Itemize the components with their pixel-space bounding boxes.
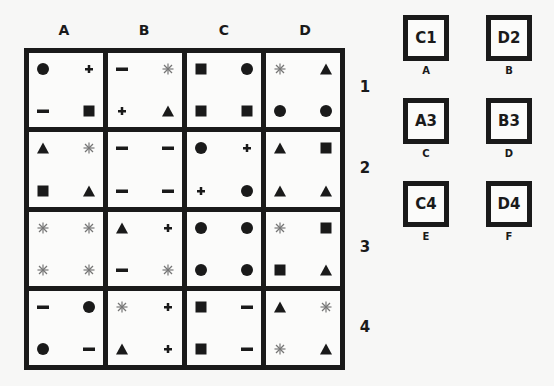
plus-icon bbox=[240, 141, 254, 155]
column-label-b: B bbox=[104, 22, 184, 38]
triangle-icon bbox=[82, 184, 96, 198]
triangle-icon bbox=[161, 104, 175, 118]
triangle-icon bbox=[273, 141, 287, 155]
option-label-d: D bbox=[486, 148, 532, 159]
option-box-b[interactable]: D2 bbox=[486, 15, 532, 61]
grid-cell-a3 bbox=[29, 212, 103, 286]
grid-cell-d4 bbox=[266, 291, 340, 365]
option-label-a: A bbox=[403, 65, 449, 76]
option-box-e[interactable]: C4 bbox=[403, 181, 449, 227]
square-icon bbox=[240, 104, 254, 118]
grid-cell-b3 bbox=[108, 212, 182, 286]
asterisk-icon bbox=[161, 62, 175, 76]
option-box-d[interactable]: B3 bbox=[486, 98, 532, 144]
asterisk-icon bbox=[273, 221, 287, 235]
option-label-f: F bbox=[486, 231, 532, 242]
circle-icon bbox=[194, 221, 208, 235]
minus-icon bbox=[115, 141, 129, 155]
triangle-icon bbox=[319, 184, 333, 198]
plus-icon bbox=[115, 104, 129, 118]
square-icon bbox=[319, 141, 333, 155]
triangle-icon bbox=[319, 342, 333, 356]
option-label-b: B bbox=[486, 65, 532, 76]
minus-icon bbox=[115, 184, 129, 198]
square-icon bbox=[36, 184, 50, 198]
minus-icon bbox=[36, 104, 50, 118]
row-label-2: 2 bbox=[355, 159, 375, 177]
asterisk-icon bbox=[273, 62, 287, 76]
circle-icon bbox=[36, 342, 50, 356]
option-label-e: E bbox=[403, 231, 449, 242]
column-label-c: C bbox=[184, 22, 264, 38]
square-icon bbox=[82, 104, 96, 118]
asterisk-icon bbox=[36, 263, 50, 277]
circle-icon bbox=[82, 300, 96, 314]
square-icon bbox=[194, 104, 208, 118]
circle-icon bbox=[319, 104, 333, 118]
grid-cell-a1 bbox=[29, 53, 103, 127]
option-box-f[interactable]: D4 bbox=[486, 181, 532, 227]
asterisk-icon bbox=[115, 300, 129, 314]
grid-cell-c1 bbox=[187, 53, 261, 127]
grid-cell-b2 bbox=[108, 132, 182, 206]
circle-icon bbox=[240, 62, 254, 76]
minus-icon bbox=[82, 342, 96, 356]
triangle-icon bbox=[273, 300, 287, 314]
triangle-icon bbox=[319, 263, 333, 277]
asterisk-icon bbox=[273, 342, 287, 356]
grid-cell-d2 bbox=[266, 132, 340, 206]
grid-cell-c2 bbox=[187, 132, 261, 206]
circle-icon bbox=[240, 263, 254, 277]
triangle-icon bbox=[273, 184, 287, 198]
column-label-a: A bbox=[24, 22, 104, 38]
grid-cell-a2 bbox=[29, 132, 103, 206]
grid-cell-c3 bbox=[187, 212, 261, 286]
circle-icon bbox=[194, 141, 208, 155]
asterisk-icon bbox=[82, 141, 96, 155]
asterisk-icon bbox=[161, 263, 175, 277]
plus-icon bbox=[161, 221, 175, 235]
triangle-icon bbox=[36, 141, 50, 155]
plus-icon bbox=[194, 184, 208, 198]
asterisk-icon bbox=[82, 263, 96, 277]
triangle-icon bbox=[319, 62, 333, 76]
square-icon bbox=[194, 342, 208, 356]
square-icon bbox=[273, 263, 287, 277]
circle-icon bbox=[240, 221, 254, 235]
minus-icon bbox=[161, 184, 175, 198]
option-box-a[interactable]: C1 bbox=[403, 15, 449, 61]
plus-icon bbox=[161, 342, 175, 356]
row-label-1: 1 bbox=[355, 78, 375, 96]
triangle-icon bbox=[115, 221, 129, 235]
plus-icon bbox=[161, 300, 175, 314]
symbol-grid bbox=[24, 48, 345, 370]
circle-icon bbox=[36, 62, 50, 76]
asterisk-icon bbox=[82, 221, 96, 235]
option-box-c[interactable]: A3 bbox=[403, 98, 449, 144]
grid-cell-b1 bbox=[108, 53, 182, 127]
grid-cell-a4 bbox=[29, 291, 103, 365]
row-label-4: 4 bbox=[355, 318, 375, 336]
grid-cell-b4 bbox=[108, 291, 182, 365]
minus-icon bbox=[240, 342, 254, 356]
row-label-3: 3 bbox=[355, 238, 375, 256]
minus-icon bbox=[115, 263, 129, 277]
grid-cell-d3 bbox=[266, 212, 340, 286]
minus-icon bbox=[36, 300, 50, 314]
plus-icon bbox=[82, 62, 96, 76]
circle-icon bbox=[194, 263, 208, 277]
triangle-icon bbox=[115, 342, 129, 356]
minus-icon bbox=[115, 62, 129, 76]
square-icon bbox=[319, 221, 333, 235]
asterisk-icon bbox=[36, 221, 50, 235]
minus-icon bbox=[161, 141, 175, 155]
asterisk-icon bbox=[319, 300, 333, 314]
option-label-c: C bbox=[403, 148, 449, 159]
grid-cell-c4 bbox=[187, 291, 261, 365]
minus-icon bbox=[240, 300, 254, 314]
square-icon bbox=[194, 300, 208, 314]
circle-icon bbox=[240, 184, 254, 198]
column-label-d: D bbox=[265, 22, 345, 38]
grid-cell-d1 bbox=[266, 53, 340, 127]
circle-icon bbox=[273, 104, 287, 118]
